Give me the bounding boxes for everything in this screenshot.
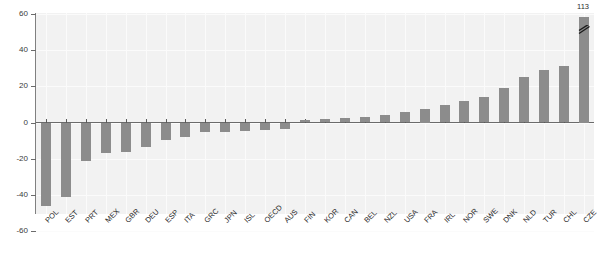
y-tick-label: 60 — [0, 10, 28, 18]
bar — [280, 123, 290, 129]
gridline-vertical — [285, 13, 286, 214]
bar — [340, 118, 350, 123]
gridline-vertical — [146, 13, 147, 214]
y-tick-mark — [31, 50, 36, 51]
y-tick-mark — [31, 159, 36, 160]
y-tick-label: -20 — [0, 155, 28, 163]
bar — [161, 123, 171, 140]
bar — [360, 117, 370, 122]
gridline-vertical — [106, 13, 107, 214]
bar — [180, 123, 190, 137]
bar — [459, 101, 469, 123]
bar — [200, 123, 210, 133]
bar — [400, 112, 410, 123]
gridline-vertical — [225, 13, 226, 214]
y-tick-label: -40 — [0, 191, 28, 199]
plot-area — [36, 13, 594, 214]
bar — [101, 123, 111, 154]
gridline-horizontal — [36, 50, 594, 51]
y-tick-mark — [31, 123, 36, 124]
bar — [559, 66, 569, 122]
bar — [579, 17, 589, 123]
gridline-horizontal — [36, 86, 594, 87]
bar — [61, 123, 71, 197]
gridline-vertical — [126, 13, 127, 214]
y-tick-mark — [31, 231, 36, 232]
y-tick-label: 20 — [0, 82, 28, 90]
gridline-vertical — [365, 13, 366, 214]
y-tick-mark — [31, 86, 36, 87]
gridline-vertical — [345, 13, 346, 214]
gridline-vertical — [265, 13, 266, 214]
bar — [440, 105, 450, 122]
y-tick-label: 0 — [0, 119, 28, 127]
gridline-vertical — [385, 13, 386, 214]
bar — [260, 123, 270, 130]
bar — [420, 109, 430, 123]
bar — [81, 123, 91, 162]
bar — [499, 88, 509, 122]
y-axis-line — [35, 13, 36, 214]
bar — [121, 123, 131, 153]
bar — [479, 97, 489, 122]
gridline-vertical — [86, 13, 87, 214]
gridline-horizontal — [36, 159, 594, 160]
cze-value-annotation: 113 — [577, 3, 589, 11]
bar — [539, 70, 549, 122]
gridline-vertical — [245, 13, 246, 214]
gridline-horizontal — [36, 14, 594, 15]
gridline-vertical — [185, 13, 186, 214]
y-tick-label: -60 — [0, 227, 28, 235]
gridline-vertical — [305, 13, 306, 214]
bar — [220, 123, 230, 132]
y-tick-mark — [31, 195, 36, 196]
gridline-horizontal — [36, 231, 594, 232]
bar — [519, 77, 529, 122]
bar — [320, 119, 330, 123]
gridline-vertical — [166, 13, 167, 214]
y-tick-label: 40 — [0, 46, 28, 54]
bar — [41, 123, 51, 206]
bar-chart: 6040200-20-40-60 POLESTPRTMEXGBRDEUESPIT… — [0, 0, 599, 261]
bar — [240, 123, 250, 131]
bar — [141, 123, 151, 147]
y-tick-mark — [31, 14, 36, 15]
gridline-vertical — [325, 13, 326, 214]
bar — [300, 120, 310, 123]
gridline-horizontal — [36, 195, 594, 196]
bar — [380, 115, 390, 122]
gridline-vertical — [205, 13, 206, 214]
